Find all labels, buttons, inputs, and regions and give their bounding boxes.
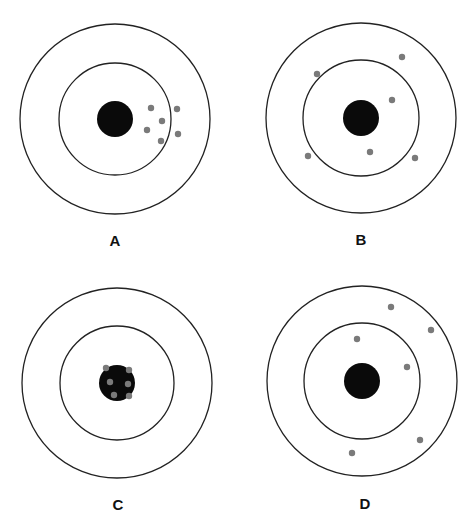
- shot-mark: [388, 304, 394, 310]
- target-label: A: [110, 232, 121, 249]
- shot-mark: [125, 381, 131, 387]
- shot-mark: [417, 437, 423, 443]
- targets-diagram: ABCD: [0, 0, 466, 512]
- shot-mark: [404, 364, 410, 370]
- target-c: C: [22, 288, 212, 512]
- shot-mark: [349, 450, 355, 456]
- shot-mark: [158, 138, 164, 144]
- target-a: A: [20, 24, 210, 249]
- shot-mark: [399, 54, 405, 60]
- shot-mark: [111, 392, 117, 398]
- target-label: C: [113, 496, 124, 512]
- shot-mark: [159, 118, 165, 124]
- shot-mark: [354, 336, 360, 342]
- shot-mark: [389, 97, 395, 103]
- shot-mark: [428, 327, 434, 333]
- target-label: B: [356, 231, 367, 248]
- shot-mark: [107, 379, 113, 385]
- shot-mark: [103, 365, 109, 371]
- shot-mark: [126, 367, 132, 373]
- target-d: D: [267, 286, 457, 512]
- shot-mark: [144, 127, 150, 133]
- bullseye: [343, 100, 379, 136]
- shot-mark: [367, 149, 373, 155]
- shot-mark: [174, 106, 180, 112]
- shot-mark: [412, 155, 418, 161]
- bullseye: [97, 101, 133, 137]
- shot-mark: [314, 71, 320, 77]
- target-label: D: [360, 495, 371, 512]
- shot-mark: [305, 153, 311, 159]
- bullseye: [344, 363, 380, 399]
- target-b: B: [266, 23, 456, 248]
- shot-mark: [175, 131, 181, 137]
- shot-mark: [148, 105, 154, 111]
- shot-mark: [126, 393, 132, 399]
